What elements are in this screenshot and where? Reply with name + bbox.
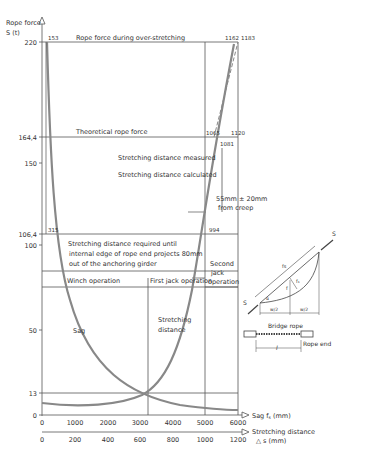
y-tick-164-4: 164,4 — [18, 134, 37, 142]
inset-label-s: S — [243, 299, 247, 306]
inset-label-f: f — [286, 285, 288, 291]
x-axis-stretch-arrow-icon — [242, 429, 249, 435]
x2-tick: 400 — [102, 436, 114, 444]
force-arrow-top-icon — [321, 240, 333, 250]
x2-tick: 1000 — [197, 436, 214, 444]
label-theoretical: Theoretical rope force — [75, 128, 147, 136]
inset-label-bridge-rope: Bridge rope — [268, 322, 303, 330]
y-tick-100: 100 — [25, 242, 37, 250]
label-measured: Stretching distance measured — [118, 154, 216, 162]
inset-label-w2: w/2 — [300, 307, 308, 312]
inset-label-l: l — [276, 344, 278, 351]
x2-axis-title: Stretching distance — [252, 428, 315, 436]
label-calculated: Stretching distance calculated — [118, 171, 217, 179]
point-label: 994 — [209, 227, 220, 233]
y-tick-106-4: 106,4 — [18, 231, 37, 239]
x2-tick: 200 — [69, 436, 81, 444]
stretching-distance-measured-curve — [214, 42, 238, 137]
x2-tick: 1200 — [230, 436, 247, 444]
point-label: 1081 — [220, 141, 234, 147]
y-tick-150: 150 — [25, 160, 37, 168]
x1-tick: 1000 — [67, 419, 84, 427]
label-sag-curve: Sag — [73, 327, 85, 335]
x1-tick: 4000 — [165, 419, 182, 427]
x2-tick: 800 — [167, 436, 179, 444]
y-tick-0: 0 — [33, 412, 37, 420]
point-label: 1162 — [225, 35, 239, 41]
label-creep: 55mm ± 20mm — [216, 195, 267, 203]
x1-tick: 2000 — [100, 419, 117, 427]
label-second-jack: Second — [210, 260, 234, 268]
y-axis-unit: S (t) — [6, 29, 20, 37]
point-label: 1065 — [206, 130, 220, 136]
inset-label-s: S — [332, 230, 336, 237]
x2-axis-unit: △ s (mm) — [256, 437, 286, 445]
label-second-jack-2: jack — [210, 269, 224, 277]
sag-curve — [47, 42, 238, 410]
x2-tick: 0 — [40, 436, 44, 444]
label-winch: Winch operation — [67, 277, 120, 285]
x-axis-sag-arrow-icon — [242, 412, 249, 418]
x1-tick: 6000 — [230, 419, 247, 427]
point-label: 1183 — [241, 35, 255, 41]
label-required-2: internal edge of rope end projects 80mm — [69, 250, 203, 258]
x1-tick: 5000 — [197, 419, 214, 427]
force-arrow-bottom-icon — [248, 305, 258, 314]
label-stretch-curve-2: distance — [158, 326, 186, 334]
point-label: 153 — [48, 35, 59, 41]
x1-tick: 3000 — [132, 419, 149, 427]
label-second-jack-3: operation — [208, 278, 239, 286]
x1-axis-title: Sag fs(mm) — [252, 412, 291, 420]
rope-sag-inset-diagram — [244, 240, 333, 352]
point-label: 315 — [48, 227, 59, 233]
y-tick-13: 13 — [29, 390, 37, 398]
label-creep-2: from creep — [218, 204, 253, 212]
y-axis-title: Rope force — [6, 19, 41, 27]
label-over-stretch: Rope force during over-stretching — [76, 34, 185, 42]
y-tick-220: 220 — [25, 39, 37, 47]
rope-force-chart: 220 164,4 150 106,4 100 50 13 0 Rope for… — [0, 0, 367, 463]
label-stretch-curve: Stretching — [158, 316, 192, 324]
inset-label-rope-end: Rope end — [303, 340, 331, 348]
label-required-3: out of the anchoring girder — [69, 260, 157, 268]
inset-label-fs: fs — [282, 263, 287, 269]
label-first-jack: First jack operation — [150, 277, 212, 285]
y-tick-50: 50 — [29, 327, 37, 335]
inset-label-alpha: α — [266, 296, 269, 301]
x2-tick: 600 — [134, 436, 146, 444]
label-required: Stretching distance required until — [68, 240, 177, 248]
point-label: 1120 — [231, 130, 245, 136]
inset-label-w2: w/2 — [270, 307, 278, 312]
x1-tick: 0 — [40, 419, 44, 427]
inset-label-f1: f₁ — [296, 278, 300, 284]
